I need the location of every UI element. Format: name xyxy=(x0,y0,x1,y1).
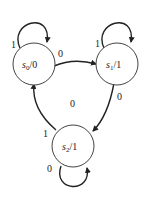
label-s2-s2: 0 xyxy=(47,163,52,174)
state-s1: s1/1 xyxy=(96,43,138,85)
transition-s0-s1 xyxy=(54,61,96,66)
label-s1-s1: 1 xyxy=(95,38,100,49)
label-s0-s0: 1 xyxy=(11,39,16,50)
label-s1-s2: 0 xyxy=(117,91,122,102)
transition-s2-s2 xyxy=(60,166,88,187)
transition-s1-s2 xyxy=(93,83,114,131)
transition-s2-s0 xyxy=(34,84,56,130)
state-s2: s2/1 xyxy=(52,125,94,167)
center-label: 0 xyxy=(70,98,75,109)
label-s2-s0: 1 xyxy=(43,128,48,139)
label-s0-s1: 0 xyxy=(58,48,63,59)
state-diagram: 1 0 1 0 1 0 0 s0/0 s1/1 s2/1 xyxy=(0,0,143,209)
state-s0: s0/0 xyxy=(13,43,55,85)
